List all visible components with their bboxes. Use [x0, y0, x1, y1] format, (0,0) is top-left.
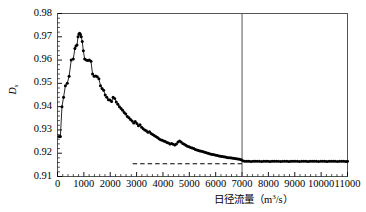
data-point	[113, 97, 116, 100]
data-point	[89, 60, 92, 63]
data-point	[97, 77, 100, 80]
data-point	[110, 100, 113, 103]
data-point	[64, 84, 67, 87]
data-point	[77, 35, 80, 38]
data-point	[82, 49, 85, 52]
series-markers	[58, 32, 349, 163]
data-point	[68, 75, 71, 78]
data-point	[102, 89, 105, 92]
data-point	[60, 105, 63, 108]
data-point	[81, 40, 84, 43]
data-point	[62, 96, 65, 99]
data-point	[72, 57, 75, 60]
data-point	[59, 135, 62, 138]
y-tick-label: 0.98	[18, 7, 52, 18]
data-point	[80, 35, 83, 38]
x-axis-title: 日径流量（m3/s）	[214, 191, 293, 206]
data-point	[66, 82, 69, 85]
y-tick-label: 0.94	[18, 100, 52, 111]
data-point	[76, 43, 79, 46]
y-axis-title-text: D	[7, 87, 18, 94]
data-point	[346, 160, 349, 163]
y-axis-title: Ds	[7, 74, 18, 106]
x-tick-label: 11000	[333, 178, 363, 189]
chart-figure: Ds 0.910.920.930.940.950.960.970.98 0100…	[0, 0, 366, 212]
series-line	[59, 33, 347, 161]
y-tick-label: 0.93	[18, 123, 52, 134]
y-tick-label: 0.95	[18, 76, 52, 87]
data-point	[99, 84, 102, 87]
y-tick-label: 0.96	[18, 53, 52, 64]
y-tick-label: 0.92	[18, 146, 52, 157]
y-tick-label: 0.97	[18, 30, 52, 41]
